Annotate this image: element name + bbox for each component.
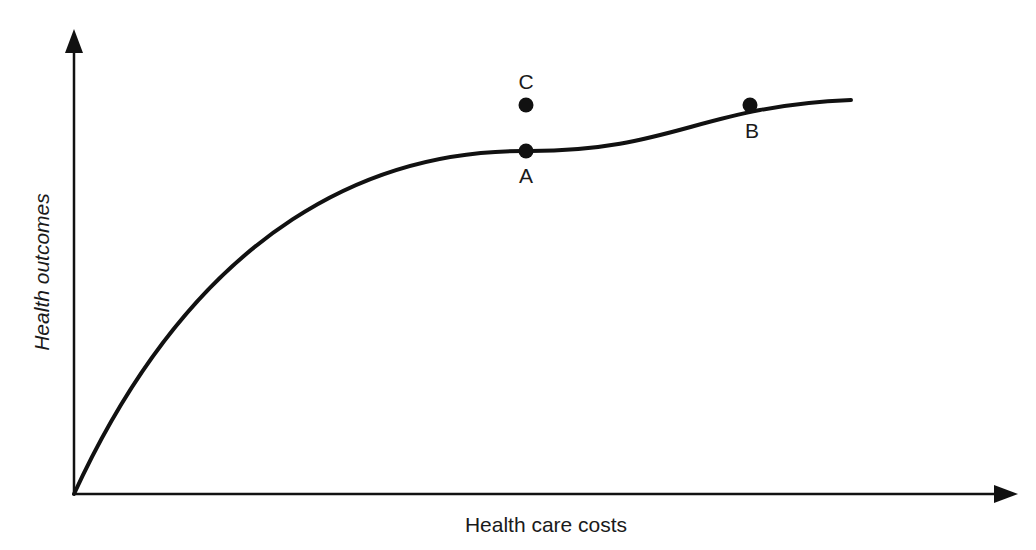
frontier-curve [74,100,851,494]
x-axis-arrowhead-icon [994,485,1018,503]
y-axis-arrowhead-icon [65,29,83,53]
y-axis [65,29,83,494]
point-c-marker [519,98,534,113]
point-c-label: C [518,70,533,93]
point-b-marker [743,98,758,113]
point-a-label: A [519,164,533,187]
diagram-canvas: A B C Health care costs Health outcomes [0,0,1036,550]
point-b-label: B [745,119,759,142]
y-axis-label: Health outcomes [30,193,53,351]
x-axis-label: Health care costs [465,513,627,536]
x-axis [74,485,1018,503]
point-a-marker [519,144,534,159]
